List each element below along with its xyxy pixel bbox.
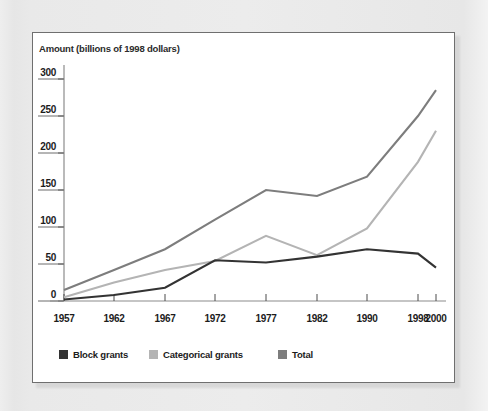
y-tick-label: 100 — [40, 215, 57, 226]
y-tick-label: 250 — [40, 104, 57, 115]
legend-swatch — [278, 350, 287, 359]
series-line-categorical-grants — [64, 131, 436, 297]
y-tick-label: 300 — [40, 67, 57, 78]
x-tick-label: 1977 — [255, 313, 277, 324]
legend-label: Total — [292, 349, 313, 360]
legend-swatch — [149, 350, 158, 359]
line-chart: Amount (billions of 1998 dollars) 050100… — [33, 33, 454, 382]
x-tick-label: 1972 — [204, 313, 226, 324]
series-line-total — [64, 90, 436, 290]
y-tick-label: 0 — [51, 289, 57, 300]
y-tick-label: 150 — [40, 178, 57, 189]
y-tick-label: 200 — [40, 141, 57, 152]
x-axis: 195719621967197219771982199019982000 — [50, 294, 447, 324]
chart-panel: Amount (billions of 1998 dollars) 050100… — [32, 32, 455, 383]
x-tick-label: 2000 — [425, 313, 447, 324]
x-tick-label: 1957 — [53, 313, 75, 324]
x-tick-label: 1962 — [103, 313, 125, 324]
chart-legend: Block grantsCategorical grantsTotal — [59, 349, 313, 360]
x-tick-label: 1967 — [154, 313, 176, 324]
x-tick-label: 1982 — [306, 313, 328, 324]
y-axis-title: Amount (billions of 1998 dollars) — [39, 43, 180, 54]
series-lines — [64, 90, 436, 299]
y-axis: 050100150200250300 — [38, 65, 64, 301]
legend-label: Categorical grants — [163, 349, 243, 360]
y-tick-label: 50 — [45, 252, 56, 263]
legend-label: Block grants — [73, 349, 128, 360]
x-tick-label: 1990 — [356, 313, 378, 324]
series-line-block-grants — [64, 249, 436, 299]
legend-swatch — [59, 350, 68, 359]
